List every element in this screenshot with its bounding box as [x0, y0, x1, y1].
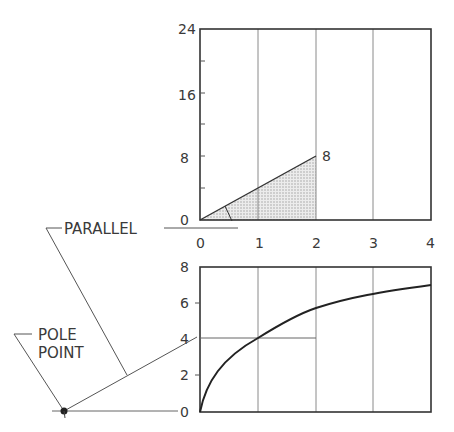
y-tick-label: 24 [178, 21, 196, 37]
y-tick-label: 0 [180, 404, 189, 420]
y-tick-label: 16 [178, 87, 196, 103]
ray-to-value [64, 337, 197, 411]
endpoint-label: 8 [322, 148, 331, 164]
x-tick-label: 4 [426, 235, 435, 251]
y-tick-label: 6 [180, 295, 189, 311]
bottom-chart: 8 6 4 2 0 [180, 259, 431, 420]
pole-label-line1: POLE [38, 326, 77, 344]
y-tick-label: 4 [180, 331, 189, 347]
y-tick-label: 0 [180, 212, 189, 228]
graphical-integration-diagram: 24 16 8 0 8 0 1 2 3 4 PARALLEL 8 [0, 0, 454, 432]
y-tick-label: 8 [180, 150, 189, 166]
parallel-label: PARALLEL [64, 220, 138, 238]
pole-label-line2: POINT [38, 344, 84, 362]
y-tick-label: 8 [180, 259, 189, 275]
top-chart: 24 16 8 0 8 0 1 2 3 4 [178, 21, 435, 251]
x-tick-label: 0 [196, 235, 205, 251]
x-tick-label: 3 [369, 235, 378, 251]
x-tick-label: 1 [255, 235, 264, 251]
y-tick-label: 2 [180, 367, 189, 383]
pole-point-construction: POLE POINT [14, 326, 197, 418]
x-tick-label: 2 [312, 235, 321, 251]
